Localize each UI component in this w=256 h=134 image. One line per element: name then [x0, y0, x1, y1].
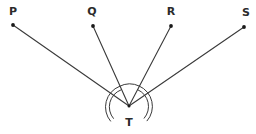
- point-label-R: R: [167, 6, 175, 17]
- point-T: [128, 105, 131, 108]
- points-group: [11, 23, 246, 107]
- point-S: [242, 25, 246, 29]
- ray-TP: [13, 25, 129, 106]
- angle-QTR-arc: [119, 84, 139, 87]
- ray-TS: [129, 27, 244, 106]
- point-label-T: T: [125, 117, 133, 128]
- point-P: [11, 23, 15, 27]
- point-label-S: S: [242, 7, 250, 18]
- rays-group: [13, 25, 244, 106]
- geometry-canvas: [0, 0, 256, 134]
- point-R: [169, 24, 173, 28]
- point-label-Q: Q: [87, 6, 96, 17]
- point-Q: [91, 24, 95, 28]
- geometry-figure: P Q R S T: [0, 0, 256, 134]
- point-label-P: P: [9, 6, 17, 17]
- ray-TR: [129, 26, 171, 106]
- angle-PTQ-arc-inner: [109, 90, 121, 118]
